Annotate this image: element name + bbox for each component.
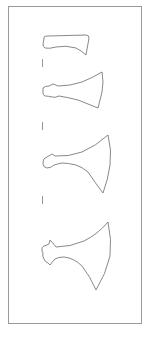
axe-head-2: [43, 72, 103, 108]
axe-head-3: [43, 135, 111, 193]
figure-canvas: [0, 0, 148, 344]
axe-head-1: [43, 35, 89, 55]
axe-drawing: [0, 0, 148, 344]
axe-head-4: [42, 222, 111, 290]
